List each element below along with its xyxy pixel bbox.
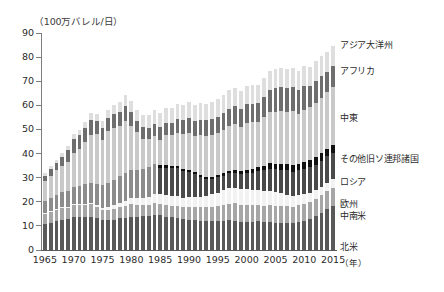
bar-segment [112,180,116,206]
bar-segment [118,102,122,112]
y-axis-tick-label: 60 [4,99,34,110]
bar-segment [245,123,249,170]
bar-segment [193,121,197,136]
bar-segment [135,132,139,169]
bar-segment [101,140,105,185]
y-axis-tick-label: 10 [4,220,34,231]
x-axis-tick-label: 1980 [119,254,143,265]
bar-segment [95,121,99,134]
bar-segment [279,68,283,87]
bar-segment [308,86,312,107]
bar-segment [233,106,237,124]
bar-segment [331,87,335,146]
bar-segment [193,220,197,250]
bar-segment [297,195,301,206]
bar-segment [204,136,208,177]
bar-column [256,85,260,250]
bar-segment [176,119,180,132]
bar-segment [256,103,260,122]
bar-segment [147,216,151,250]
bar-segment [308,107,312,160]
bar-segment [164,205,168,217]
bar-segment [222,113,226,130]
bar-segment [170,108,174,123]
bar-segment [279,206,283,223]
bar-segment [297,164,301,171]
bar-segment [89,120,93,134]
bar-segment [158,127,162,140]
bar-segment [181,198,185,207]
bar-segment [239,109,243,127]
bar-segment [106,183,110,207]
bar-column [227,90,231,250]
bar-segment [262,206,266,222]
bar-segment [302,204,306,221]
bar-column [55,160,59,250]
bar-column [222,95,226,250]
bar-segment [129,101,133,112]
y-axis-labels: 0102030405060708090 [0,0,34,292]
bar-segment [251,122,255,169]
bar-segment [314,199,318,216]
bar-segment [164,123,168,136]
bar-segment [112,209,116,220]
x-axis-tick-label: 2005 [263,254,287,265]
bar-segment [285,206,289,222]
bar-segment [233,88,237,106]
bar-segment [239,127,243,172]
y-axis-tick-label: 30 [4,172,34,183]
bar-segment [216,133,220,175]
bar-segment [83,184,87,203]
bar-column [262,78,266,250]
bar-segment [251,205,255,221]
bar-segment [308,167,312,192]
bar-segment [106,110,110,118]
bar-segment [256,221,260,250]
bar-segment [89,204,93,217]
x-axis-tick-label: 1965 [33,254,57,265]
bar-segment [251,173,255,190]
bar-segment [239,174,243,189]
bar-segment [135,110,139,121]
bar-segment [78,186,82,204]
bar-segment [124,95,128,105]
x-axis-tick-label: 1985 [148,254,172,265]
legend-label: 北米 [340,242,357,253]
bar-segment [216,221,220,250]
bar-segment [101,210,105,220]
y-axis-tick [36,177,41,178]
bar-segment [239,189,243,205]
bar-segment [78,217,82,250]
bar-segment [124,206,128,218]
bar-column [320,56,324,250]
bar-segment [181,171,185,198]
y-axis-tick [36,250,41,251]
bar-segment [245,205,249,222]
bar-segment [297,71,301,90]
bar-segment [245,222,249,250]
chart-legend: アジア大洋州アフリカ中東その他旧ソ連邦諸国ロシア欧州中南米北米 [338,0,444,292]
y-axis-tick [36,33,41,34]
bar-segment [187,207,191,220]
bar-segment [204,104,208,121]
bar-segment [291,207,295,223]
bar-segment [308,193,312,202]
bar-segment [147,115,151,128]
bar-segment [49,223,53,250]
y-axis-tick [36,153,41,154]
bar-segment [83,142,87,184]
bar-column [325,52,329,250]
bar-column [331,46,335,250]
bar-segment [274,192,278,206]
bar-segment [170,196,174,206]
bar-segment [181,120,185,134]
bar-segment [199,103,203,119]
bar-segment [308,219,312,250]
bar-segment [285,112,289,164]
bar-segment [118,176,122,203]
bar-segment [262,170,266,190]
bar-segment [158,140,162,165]
bar-segment [43,201,47,213]
bar-column [210,102,214,250]
bar-segment [95,114,99,121]
